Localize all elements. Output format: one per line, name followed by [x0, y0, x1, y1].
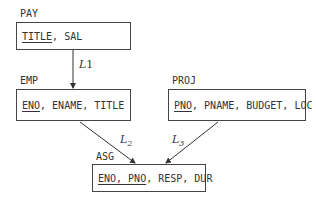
- node-emp: ENO, ENAME, TITLE: [16, 89, 131, 121]
- node-emp-attrs: , ENAME, TITLE: [40, 100, 124, 111]
- node-emp-key: ENO: [22, 100, 40, 111]
- node-pay: TITLE, SAL: [16, 22, 131, 50]
- node-asg: ENO, PNO, RESP, DUR: [92, 164, 206, 192]
- node-asg-attrs: , RESP, DUR: [146, 173, 212, 184]
- edge-l2-label: L2: [120, 133, 132, 148]
- node-emp-title: EMP: [20, 75, 38, 87]
- node-asg-key: ENO, PNO: [98, 173, 146, 184]
- edge-l1-label: L1: [79, 58, 93, 71]
- node-pay-attrs: , SAL: [52, 31, 82, 42]
- node-proj: PNO, PNAME, BUDGET, LOC: [168, 89, 306, 121]
- node-proj-key: PNO: [174, 100, 192, 111]
- node-asg-title: ASG: [96, 151, 114, 163]
- node-pay-title: PAY: [20, 8, 38, 20]
- edge-l3-label: L3: [172, 133, 184, 148]
- node-proj-title: PROJ: [172, 75, 196, 87]
- node-pay-key: TITLE: [22, 31, 52, 42]
- node-proj-attrs: , PNAME, BUDGET, LOC: [192, 100, 312, 111]
